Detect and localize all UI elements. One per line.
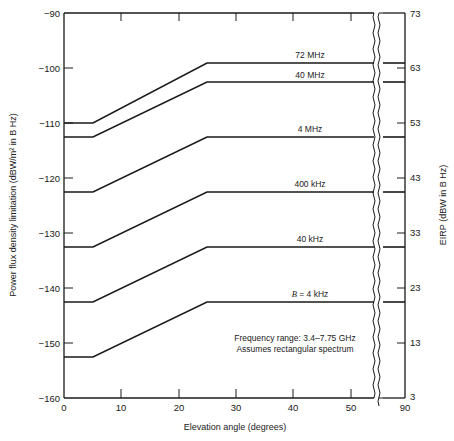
x-tick-label: 20 — [174, 402, 185, 413]
x-axis-title: Elevation angle (degrees) — [184, 422, 287, 432]
series-72mhz — [64, 63, 374, 123]
series-label-40khz: 40 kHz — [297, 234, 323, 244]
y2-axis-tick-labels: 73 63 53 43 33 23 13 3 — [410, 8, 421, 402]
series-label-40mhz: 40 MHz — [295, 70, 324, 80]
y2-tick-label: 13 — [410, 337, 421, 348]
y2-axis-title: EIRP (dBW in B Hz) — [438, 165, 448, 245]
x-tick-label: 40 — [288, 402, 299, 413]
y-tick-label: −120 — [39, 173, 60, 184]
y-tick-label: −140 — [39, 283, 60, 294]
y-axis-tick-labels: −90 −100 −110 −120 −130 −140 −150 −160 — [39, 8, 60, 404]
y2-tick-label: 73 — [410, 8, 421, 19]
series-label-4khz-rest: = 4 kHz — [297, 289, 328, 299]
x-tick-label: 30 — [231, 402, 242, 413]
y-tick-label: −90 — [44, 8, 60, 19]
series-label-4mhz: 4 MHz — [298, 124, 323, 134]
series-40mhz — [64, 82, 374, 137]
note-frequency-range: Frequency range: 3.4–7.75 GHz — [234, 333, 355, 343]
y-tick-label: −130 — [39, 228, 60, 239]
series-label-72mhz: 72 MHz — [295, 50, 324, 60]
chart-canvas: 72 MHz 40 MHz 4 MHz 400 kHz 40 kHz B = 4… — [0, 0, 454, 441]
x-axis-tick-labels: 0 10 20 30 40 50 90 — [61, 402, 410, 413]
y2-tick-label: 63 — [410, 62, 421, 73]
y-tick-label: −110 — [39, 118, 60, 129]
series-400khz — [64, 192, 374, 247]
y2-tick-label: 53 — [410, 117, 421, 128]
y-axis-title: Power flux density limitation (dBW/m² in… — [8, 113, 18, 297]
series-4mhz — [64, 137, 374, 192]
y-tick-label: −160 — [39, 393, 60, 404]
series-label-400khz: 400 kHz — [294, 179, 325, 189]
y2-tick-label: 23 — [410, 282, 421, 293]
note-rectangular-spectrum: Assumes rectangular spectrum — [236, 344, 353, 354]
y2-tick-label: 3 — [410, 391, 415, 402]
series-label-4khz: B = 4 kHz — [292, 289, 329, 299]
x-tick-label: 90 — [400, 402, 411, 413]
y2-tick-label: 43 — [410, 172, 421, 183]
y-tick-label: −150 — [39, 338, 60, 349]
y-tick-label: −100 — [39, 63, 60, 74]
axis-break — [373, 13, 383, 406]
x-tick-label: 50 — [346, 402, 357, 413]
x-tick-label: 10 — [116, 402, 127, 413]
x-tick-label: 0 — [61, 402, 66, 413]
series-lines — [64, 63, 405, 357]
y2-tick-label: 33 — [410, 227, 421, 238]
